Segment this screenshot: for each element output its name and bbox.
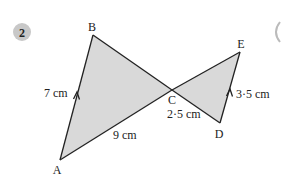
question-number: 2 xyxy=(19,26,25,40)
measurement-ac: 9 cm xyxy=(113,128,137,142)
geometry-diagram: 2 B E C D A 7 cm 9 cm 2·5 cm 3·5 cm xyxy=(0,0,281,177)
page-edge-arc xyxy=(276,22,280,42)
measurement-ab: 7 cm xyxy=(44,86,68,100)
vertex-label-a: A xyxy=(53,163,62,177)
measurement-de: 3·5 cm xyxy=(236,87,270,101)
measurement-cd: 2·5 cm xyxy=(167,107,201,121)
vertex-label-c: C xyxy=(168,93,176,107)
vertex-label-e: E xyxy=(237,37,244,51)
vertex-label-b: B xyxy=(88,20,96,34)
vertex-label-d: D xyxy=(215,127,224,141)
question-number-badge: 2 xyxy=(13,23,31,41)
